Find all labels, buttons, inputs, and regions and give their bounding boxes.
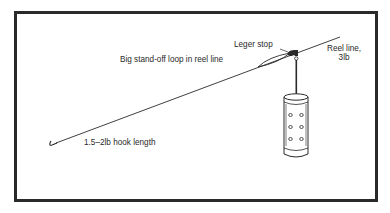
label-hook-length: 1.5–2lb hook length	[84, 138, 155, 147]
label-reel-line-weight: 3lb	[327, 53, 361, 62]
rig-illustration	[0, 0, 390, 213]
stand-off-loop	[258, 53, 290, 67]
hook-length-line	[56, 66, 262, 143]
swivel	[295, 50, 299, 56]
label-leger-stop: Leger stop	[234, 40, 273, 49]
swivel-ring	[295, 57, 298, 60]
swimfeeder	[284, 94, 308, 157]
label-reel-line-text: Reel line,	[327, 44, 361, 53]
hook-icon	[50, 141, 57, 145]
label-reel-line: Reel line, 3lb	[327, 44, 361, 63]
label-stand-off-loop: Big stand-off loop in reel line	[120, 55, 223, 64]
leger-stop-pointer	[280, 49, 288, 52]
